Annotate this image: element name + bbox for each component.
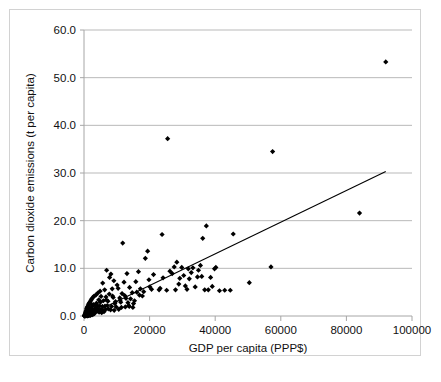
x-tick-label: 40000 <box>199 324 231 336</box>
scatter-point <box>208 275 213 280</box>
x-tick-label: 80000 <box>330 324 362 336</box>
scatter-point <box>124 271 129 276</box>
y-axis-tick-labels: 0.010.020.030.040.050.060.0 <box>54 24 76 322</box>
scatter-point <box>193 284 198 289</box>
scatter-point <box>133 279 138 284</box>
scatter-point <box>165 136 170 141</box>
scatter-chart: 0.010.020.030.040.050.060.0 020000400006… <box>0 0 441 382</box>
scatter-point <box>177 276 182 281</box>
scatter-point <box>189 270 194 275</box>
scatter-point <box>120 240 125 245</box>
y-tick-label: 40.0 <box>54 119 76 131</box>
y-tick-label: 30.0 <box>54 167 76 179</box>
scatter-point <box>195 274 200 279</box>
x-axis-ticks <box>84 316 412 321</box>
scatter-point <box>102 287 107 292</box>
scatter-point <box>199 274 204 279</box>
scatter-point <box>173 287 178 292</box>
scatter-point <box>181 273 186 278</box>
scatter-point <box>247 280 252 285</box>
y-axis-title: Carbon dioxide emissions (t per capita) <box>24 73 36 273</box>
horizontal-gridlines <box>84 30 412 268</box>
scatter-point <box>143 256 148 261</box>
scatter-point <box>200 236 205 241</box>
scatter-point <box>159 232 164 237</box>
scatter-point <box>231 231 236 236</box>
x-tick-label: 60000 <box>265 324 297 336</box>
scatter-point <box>127 285 132 290</box>
scatter-point <box>228 288 233 293</box>
x-axis-title: GDP per capita (PPP$) <box>189 342 308 354</box>
scatter-point <box>187 276 192 281</box>
scatter-point <box>206 287 211 292</box>
chart-figure: 0.010.020.030.040.050.060.0 020000400006… <box>0 0 441 382</box>
scatter-point <box>210 284 215 289</box>
scatter-point <box>121 280 126 285</box>
scatter-point <box>383 59 388 64</box>
scatter-point <box>270 149 275 154</box>
scatter-point <box>174 260 179 265</box>
scatter-point <box>100 281 105 286</box>
scatter-point <box>146 277 151 282</box>
y-tick-label: 10.0 <box>54 262 76 274</box>
x-tick-label: 20000 <box>134 324 166 336</box>
scatter-point <box>151 272 156 277</box>
x-tick-label: 100000 <box>393 324 431 336</box>
scatter-point <box>217 288 222 293</box>
scatter-point <box>164 288 169 293</box>
y-tick-label: 0.0 <box>60 310 76 322</box>
x-axis-tick-labels: 020000400006000080000100000 <box>81 324 431 336</box>
scatter-points <box>82 59 389 318</box>
y-tick-label: 20.0 <box>54 215 76 227</box>
x-tick-label: 0 <box>81 324 87 336</box>
scatter-point <box>111 278 116 283</box>
scatter-point <box>198 263 203 268</box>
scatter-point <box>176 281 181 286</box>
scatter-point <box>357 210 362 215</box>
y-tick-label: 50.0 <box>54 72 76 84</box>
scatter-point <box>110 286 115 291</box>
y-tick-label: 60.0 <box>54 24 76 36</box>
scatter-point <box>136 269 141 274</box>
scatter-point <box>204 223 209 228</box>
scatter-point <box>186 266 191 271</box>
scatter-point <box>145 249 150 254</box>
scatter-point <box>222 288 227 293</box>
